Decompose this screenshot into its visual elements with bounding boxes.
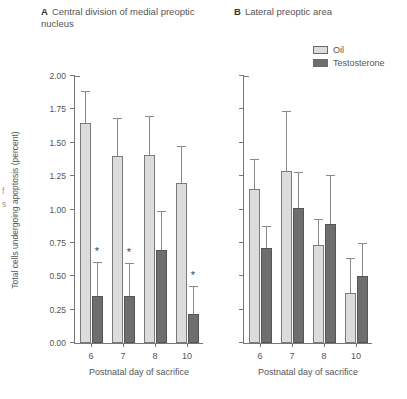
y-axis-tick-label: 1.25	[36, 171, 66, 181]
panel-b-plot-area: 67810Postnatal day of sacrifice	[243, 76, 372, 344]
y-axis-tick-label: 0.00	[36, 338, 66, 348]
error-bar-cap	[358, 243, 367, 244]
y-axis-tick	[70, 175, 75, 176]
bar-oil-day-8	[144, 155, 155, 343]
x-axis-tick	[91, 343, 92, 347]
y-axis-tick-label: 1.50	[36, 138, 66, 148]
error-bar-testosterone-day-6	[266, 227, 267, 248]
y-axis-tick	[239, 275, 244, 276]
bar-oil-day-7	[112, 156, 123, 343]
error-bar-cap	[314, 219, 323, 220]
error-bar-testosterone-day-7	[129, 264, 130, 296]
x-axis-title: Postnatal day of sacrifice	[89, 367, 189, 377]
oil-swatch-icon	[313, 46, 328, 54]
bar-testosterone-day-6	[92, 296, 103, 343]
y-axis-tick	[70, 242, 75, 243]
error-bar-oil-day-8	[149, 117, 150, 154]
error-bar-cap	[145, 116, 154, 117]
bar-testosterone-day-8	[156, 250, 167, 343]
legend-label-testosterone: Testosterone	[333, 58, 385, 68]
y-axis-tick	[70, 209, 75, 210]
error-bar-oil-day-7	[117, 119, 118, 156]
panel-b-letter: B	[234, 6, 241, 17]
error-bar-testosterone-day-10	[362, 244, 363, 276]
x-axis-tick-label: 10	[177, 351, 197, 361]
bar-oil-day-6	[249, 189, 260, 343]
y-axis-tick	[239, 175, 244, 176]
scan-fragment-1: f	[2, 186, 4, 196]
y-axis-tick	[70, 142, 75, 143]
x-axis-tick	[324, 343, 325, 347]
error-bar-cap	[81, 91, 90, 92]
x-axis-tick-label: 8	[145, 351, 165, 361]
testosterone-swatch-icon	[313, 59, 328, 67]
x-axis-tick	[123, 343, 124, 347]
x-axis-tick-label: 7	[113, 351, 133, 361]
x-axis-title: Postnatal day of sacrifice	[258, 367, 358, 377]
x-axis-tick	[260, 343, 261, 347]
bar-oil-day-10	[176, 183, 187, 343]
x-axis-tick	[356, 343, 357, 347]
error-bar-cap	[189, 286, 198, 287]
error-bar-testosterone-day-6	[97, 263, 98, 296]
significance-marker-day-7: *	[127, 248, 131, 256]
error-bar-cap	[125, 263, 134, 264]
y-axis-tick-label: 0.25	[36, 305, 66, 315]
error-bar-cap	[177, 146, 186, 147]
x-axis-tick	[155, 343, 156, 347]
error-bar-cap	[294, 172, 303, 173]
error-bar-oil-day-6	[85, 92, 86, 123]
y-axis-tick-label: 1.75	[36, 104, 66, 114]
x-axis-tick	[187, 343, 188, 347]
panel-a-title-text: Central division of medial preoptic nucl…	[41, 6, 194, 29]
y-axis-tick-label: 2.00	[36, 71, 66, 81]
bar-testosterone-day-10	[357, 276, 368, 343]
error-bar-testosterone-day-8	[161, 212, 162, 249]
error-bar-testosterone-day-10	[193, 287, 194, 314]
error-bar-cap	[326, 175, 335, 176]
bar-oil-day-6	[80, 123, 91, 343]
y-axis-top-cap	[74, 76, 80, 77]
x-axis-tick-label: 6	[81, 351, 101, 361]
x-axis-tick-label: 8	[314, 351, 334, 361]
y-axis-tick	[70, 342, 75, 343]
bar-oil-day-8	[313, 245, 324, 343]
y-axis-tick	[239, 309, 244, 310]
y-axis-tick	[239, 75, 244, 76]
bar-testosterone-day-7	[293, 208, 304, 343]
y-axis-tick	[70, 75, 75, 76]
y-axis-tick	[70, 275, 75, 276]
legend-item-testosterone: Testosterone	[313, 57, 385, 68]
bar-testosterone-day-7	[124, 296, 135, 343]
error-bar-oil-day-7	[286, 112, 287, 171]
significance-marker-day-6: *	[95, 247, 99, 255]
bar-oil-day-10	[345, 293, 356, 343]
error-bar-cap	[346, 258, 355, 259]
error-bar-oil-day-6	[254, 160, 255, 189]
bar-testosterone-day-6	[261, 248, 272, 343]
error-bar-cap	[282, 111, 291, 112]
y-axis-tick	[239, 142, 244, 143]
legend-label-oil: Oil	[333, 45, 344, 55]
error-bar-testosterone-day-7	[298, 173, 299, 208]
y-axis-title: Total cells undergoing apoptosis (percen…	[10, 131, 20, 288]
x-axis-tick-label: 10	[346, 351, 366, 361]
panel-a-plot-area: Total cells undergoing apoptosis (percen…	[74, 76, 203, 344]
panel-a-letter: A	[41, 6, 48, 17]
x-axis-tick	[292, 343, 293, 347]
panel-a-title: ACentral division of medial preoptic nuc…	[41, 6, 196, 29]
y-axis-tick	[239, 209, 244, 210]
panel-b-title-text: Lateral preoptic area	[245, 6, 332, 17]
x-axis-tick-label: 6	[250, 351, 270, 361]
significance-marker-day-10: *	[191, 271, 195, 279]
error-bar-cap	[262, 226, 271, 227]
legend-item-oil: Oil	[313, 44, 385, 55]
figure-canvas: ACentral division of medial preoptic nuc…	[0, 0, 407, 399]
scan-fragment-2: s	[2, 199, 6, 209]
x-axis-tick-label: 7	[282, 351, 302, 361]
y-axis-tick-label: 0.50	[36, 271, 66, 281]
error-bar-oil-day-8	[318, 220, 319, 245]
bar-testosterone-day-10	[188, 314, 199, 343]
y-axis-top-cap-b	[243, 76, 249, 77]
y-axis-tick	[70, 309, 75, 310]
